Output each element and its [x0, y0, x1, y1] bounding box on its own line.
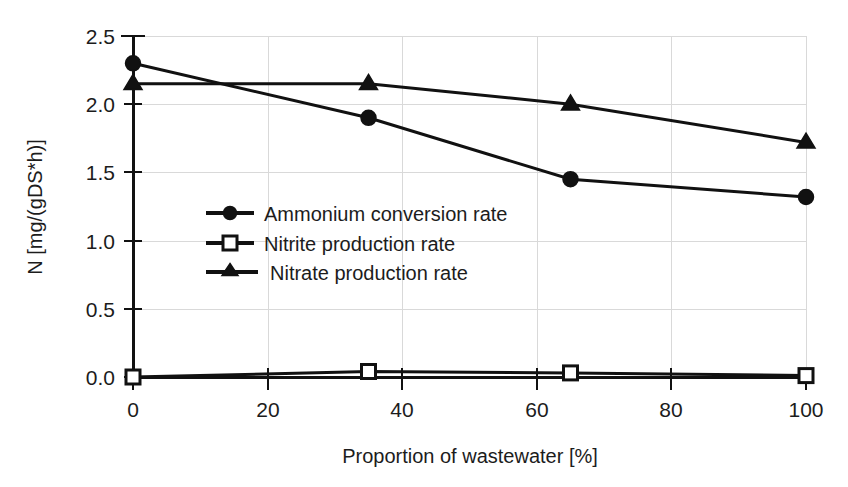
- data-point-filled-circle: [563, 172, 578, 187]
- x-tick-label-20: 20: [256, 398, 279, 421]
- x-tick-label-40: 40: [390, 398, 413, 421]
- legend-label-0: Ammonium conversion rate: [264, 203, 507, 225]
- chart-figure: 2.5 2.0 1.5 1.0 0.5 0.0 0 20 40 60 80 10…: [0, 0, 848, 487]
- legend-marker-filled-circle-icon: [224, 207, 237, 220]
- y-axis-title: N [mg/(gDS*h)]: [24, 139, 46, 275]
- y-tick-label-1.5: 1.5: [86, 161, 115, 184]
- y-tick-label-0.0: 0.0: [86, 366, 115, 389]
- legend-marker-open-square-icon: [223, 236, 237, 250]
- x-axis-title: Proportion of wastewater [%]: [342, 445, 598, 467]
- legend-label-1: Nitrite production rate: [264, 233, 455, 255]
- x-tick-label-0: 0: [127, 398, 139, 421]
- x-tick-label-80: 80: [659, 398, 682, 421]
- x-tick-label-100: 100: [788, 398, 823, 421]
- x-tick-label-60: 60: [525, 398, 548, 421]
- data-point-open-square: [126, 370, 140, 384]
- data-point-open-square: [362, 365, 376, 379]
- chart-canvas: 2.5 2.0 1.5 1.0 0.5 0.0 0 20 40 60 80 10…: [0, 0, 848, 487]
- y-tick-label-2.5: 2.5: [86, 25, 115, 48]
- y-tick-label-0.5: 0.5: [86, 298, 115, 321]
- y-tick-label-1.0: 1.0: [86, 230, 115, 253]
- data-point-open-square: [799, 369, 813, 383]
- legend-label-2: Nitrate production rate: [270, 262, 468, 284]
- data-point-filled-circle: [361, 110, 376, 125]
- data-point-open-square: [564, 366, 578, 380]
- data-point-filled-circle: [799, 190, 814, 205]
- data-point-filled-circle: [126, 56, 141, 71]
- y-tick-label-2.0: 2.0: [86, 93, 115, 116]
